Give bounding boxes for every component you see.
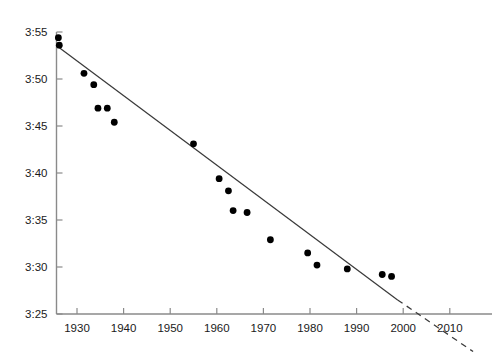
x-tick-label: 2010: [437, 322, 463, 334]
data-point: [90, 81, 97, 88]
x-tick-label: 1990: [344, 322, 370, 334]
x-tick-label: 2000: [390, 322, 416, 334]
data-point: [111, 119, 118, 126]
data-point: [225, 187, 232, 194]
x-tick-label: 1930: [64, 322, 90, 334]
y-tick-label: 3:25: [25, 308, 47, 320]
x-tick-label: 1940: [111, 322, 137, 334]
trend-lines: [58, 47, 473, 352]
data-point: [56, 42, 63, 49]
x-tick-label: 1960: [204, 322, 230, 334]
y-tick-label: 3:55: [25, 26, 47, 38]
data-point: [344, 265, 351, 272]
y-tick-label: 3:45: [25, 120, 47, 132]
chart-figure: 3:553:503:453:403:353:303:25 19301940195…: [0, 0, 496, 361]
y-tick-label: 3:50: [25, 73, 47, 85]
x-tick-label: 1950: [157, 322, 183, 334]
data-point: [388, 273, 395, 280]
data-point: [379, 271, 386, 278]
data-point: [216, 175, 223, 182]
x-tick-label: 1980: [297, 322, 323, 334]
data-point: [267, 236, 274, 243]
data-point: [190, 140, 197, 147]
data-points: [55, 34, 395, 280]
data-point: [304, 250, 311, 257]
x-axis-ticks: 193019401950196019701980199020002010: [64, 308, 462, 334]
data-point: [104, 105, 111, 112]
trend-line-fitted: [58, 47, 397, 300]
y-tick-label: 3:30: [25, 261, 47, 273]
y-tick-label: 3:40: [25, 167, 47, 179]
data-point: [95, 105, 102, 112]
x-tick-label: 1970: [251, 322, 277, 334]
data-point: [244, 209, 251, 216]
data-point: [314, 262, 321, 269]
data-point: [55, 34, 62, 41]
scatter-plot-canvas: 3:553:503:453:403:353:303:25 19301940195…: [0, 0, 496, 361]
axes: [57, 32, 493, 314]
y-tick-label: 3:35: [25, 214, 47, 226]
data-point: [230, 207, 237, 214]
data-point: [81, 70, 88, 77]
